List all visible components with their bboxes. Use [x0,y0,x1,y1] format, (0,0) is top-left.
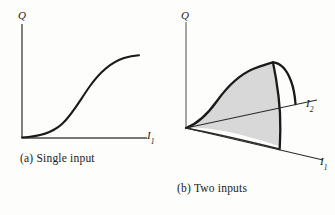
panel-single-input: Q I1 (a) Single input [0,0,168,215]
x-axis-label-subscript: 1 [151,137,155,146]
q-axis-label: Q [181,10,189,21]
i2-axis-label: I2 [306,98,313,112]
total-product-curve [22,55,139,137]
y-axis-label-text: Q [18,9,26,21]
i2-axis-label-subscript: 2 [310,105,314,114]
production-function-figure: Q I1 (a) Single input [0,0,335,215]
panel-two-inputs: Q I2 I1 (b) Two inputs [167,0,335,215]
i1-axis-label-subscript: 1 [324,163,328,172]
x-axis-label: I1 [147,130,154,144]
panel-b-caption: (b) Two inputs [177,182,247,194]
single-input-chart-svg [0,0,168,215]
y-axis-label: Q [18,10,26,21]
panel-a-caption: (a) Single input [20,152,95,164]
production-surface-fill [186,63,280,147]
q-axis-label-text: Q [181,9,189,21]
i1-axis-label: I1 [320,156,327,170]
